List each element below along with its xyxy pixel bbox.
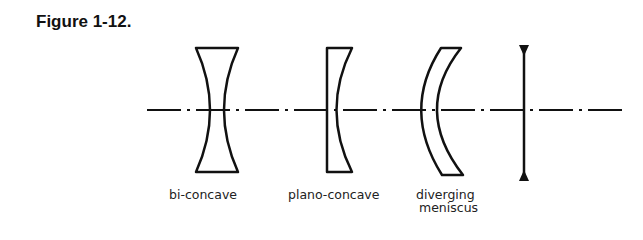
label-plano-concave: plano-concave: [288, 188, 379, 201]
label-bi-concave: bi-concave: [169, 188, 237, 201]
diverging-meniscus-lens: [421, 48, 463, 175]
label-meniscus: meniscus: [419, 201, 478, 214]
thin-diverging-lens-symbol: [519, 45, 529, 181]
